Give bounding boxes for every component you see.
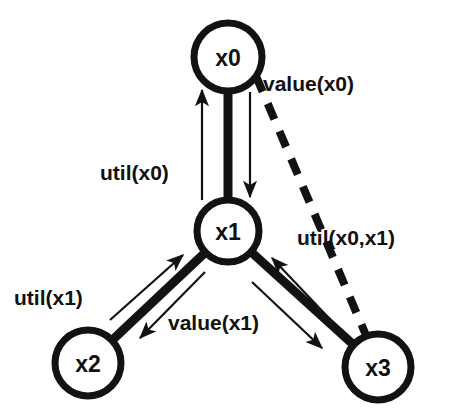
label-value-x0: value(x0) xyxy=(263,72,354,95)
node-x0[interactable]: x0 xyxy=(194,23,262,91)
arrow-util-x0-x1 xyxy=(272,258,343,333)
label-util-x0-x1: util(x0,x1) xyxy=(297,226,395,249)
node-group: x0 x1 x2 x3 xyxy=(55,23,411,400)
pseudotree-diagram: x0 x1 x2 x3 util(x0) value(x0) util(x0,x… xyxy=(0,0,453,413)
node-x1-label: x1 xyxy=(215,219,241,245)
label-util-x1: util(x1) xyxy=(14,286,83,309)
node-x1[interactable]: x1 xyxy=(197,200,259,262)
label-util-x0: util(x0) xyxy=(100,161,169,184)
label-value-x1: value(x1) xyxy=(168,311,259,334)
node-x3-label: x3 xyxy=(365,355,391,381)
node-x3[interactable]: x3 xyxy=(345,334,411,400)
node-x0-label: x0 xyxy=(215,45,241,71)
node-x2[interactable]: x2 xyxy=(55,330,121,396)
message-label-group: util(x0) value(x0) util(x0,x1) util(x1) … xyxy=(14,72,395,334)
node-x2-label: x2 xyxy=(75,351,101,377)
diagram-canvas: x0 x1 x2 x3 util(x0) value(x0) util(x0,x… xyxy=(0,0,453,413)
arrow-value-x1-to-x3 xyxy=(252,282,322,348)
